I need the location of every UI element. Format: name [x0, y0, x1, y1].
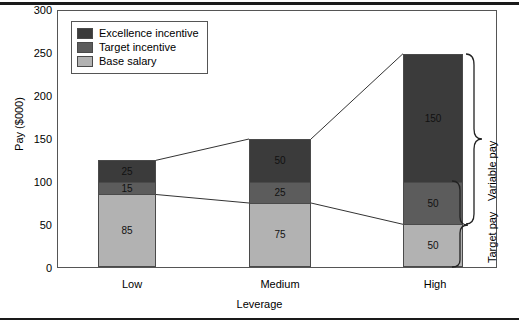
- legend-item-target-incentive[interactable]: Target incentive: [77, 40, 199, 54]
- bar-low-value-excellence: 25: [121, 166, 132, 177]
- plot-area: 25 15 85 50 25 75 150: [57, 10, 497, 268]
- bar-medium-value-excellence: 50: [274, 155, 285, 166]
- y-axis-title: Pay ($000): [13, 69, 25, 179]
- bar-high-value-target: 50: [427, 198, 438, 209]
- brace-label-variable-pay: Variable pay: [486, 141, 498, 201]
- bar-medium-value-target: 25: [274, 187, 285, 198]
- legend-swatch-base-salary: [77, 56, 93, 67]
- bar-low[interactable]: 25 15 85: [98, 160, 156, 267]
- bar-high-value-base: 50: [427, 240, 438, 251]
- brace-label-target-pay: Target pay: [486, 212, 498, 263]
- chart-legend: Excellence incentive Target incentive Ba…: [71, 21, 208, 74]
- bar-medium-segment-base[interactable]: 75: [249, 203, 311, 267]
- y-tick-250: 250: [8, 48, 52, 59]
- x-tick-low: Low: [72, 278, 192, 290]
- x-tick-medium: Medium: [220, 278, 340, 290]
- y-tick-50: 50: [8, 220, 52, 231]
- legend-swatch-excellence-incentive: [77, 28, 93, 39]
- bottom-rule: [0, 318, 519, 320]
- bar-low-value-target: 15: [121, 183, 132, 194]
- chart-figure: Pay ($000) 300 250 200 150 100 50 0 Low …: [0, 6, 519, 316]
- bar-low-value-base: 85: [121, 225, 132, 236]
- y-tick-100: 100: [8, 177, 52, 188]
- x-axis-title: Leverage: [0, 298, 519, 310]
- y-tick-300: 300: [8, 5, 52, 16]
- bar-medium-segment-target[interactable]: 25: [249, 182, 311, 203]
- y-tick-200: 200: [8, 91, 52, 102]
- bar-medium-value-base: 75: [274, 229, 285, 240]
- bar-high-value-excellence: 150: [425, 113, 442, 124]
- top-rule: [0, 2, 519, 5]
- y-tick-150: 150: [8, 134, 52, 145]
- brace-target-pay: [450, 179, 480, 269]
- bar-low-segment-base[interactable]: 85: [98, 194, 156, 267]
- bar-low-segment-target[interactable]: 15: [98, 182, 156, 195]
- legend-label-excellence-incentive: Excellence incentive: [99, 27, 199, 39]
- bar-low-segment-excellence[interactable]: 25: [98, 160, 156, 181]
- legend-label-target-incentive: Target incentive: [99, 41, 176, 53]
- legend-item-excellence-incentive[interactable]: Excellence incentive: [77, 26, 199, 40]
- bar-high-segment-excellence[interactable]: 150: [403, 54, 463, 182]
- bar-medium[interactable]: 50 25 75: [249, 139, 311, 267]
- legend-item-base-salary[interactable]: Base salary: [77, 54, 199, 68]
- x-tick-high: High: [375, 278, 495, 290]
- legend-swatch-target-incentive: [77, 42, 93, 53]
- legend-label-base-salary: Base salary: [99, 55, 156, 67]
- bar-medium-segment-excellence[interactable]: 50: [249, 139, 311, 182]
- y-tick-0: 0: [8, 263, 52, 274]
